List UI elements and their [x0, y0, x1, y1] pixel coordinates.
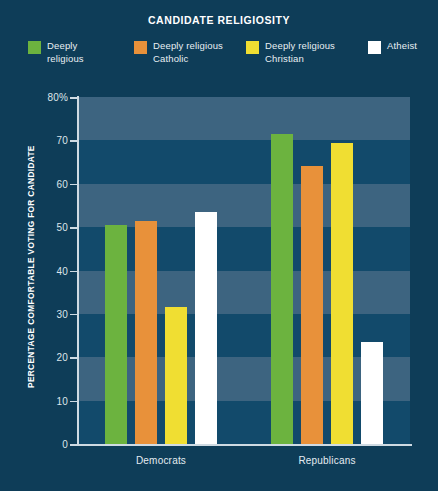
bar	[271, 134, 293, 444]
x-axis-tick-label: Republicans	[298, 455, 355, 466]
bar	[331, 143, 353, 444]
legend-item: Atheist	[368, 40, 438, 54]
y-axis-tick-label: 30	[22, 308, 68, 319]
legend-swatch-icon	[368, 41, 381, 54]
y-axis-tick	[70, 184, 77, 186]
plot-band	[78, 140, 410, 183]
legend-item: Deeply religious Christian	[246, 40, 366, 65]
y-axis-tick	[70, 401, 77, 403]
y-axis-tick-label: 60	[22, 178, 68, 189]
y-axis-tick-label: 40	[22, 265, 68, 276]
bar	[135, 221, 157, 444]
legend-item-label: Atheist	[387, 40, 417, 53]
plot-band	[78, 271, 410, 314]
legend-item-label: Deeply religious Catholic	[153, 40, 223, 65]
bar	[301, 166, 323, 444]
chart-container: CANDIDATE RELIGIOSITY Deeply religious D…	[0, 0, 438, 491]
y-axis-tick	[70, 97, 77, 99]
y-axis-tick	[70, 314, 77, 316]
y-axis-tick-label: 50	[22, 222, 68, 233]
x-axis-line	[77, 444, 412, 446]
bar	[195, 212, 217, 444]
y-axis-tick-label: 0	[22, 439, 68, 450]
y-axis-tick-label: 10	[22, 395, 68, 406]
chart-legend: Deeply religious Deeply religious Cathol…	[28, 40, 430, 74]
y-axis-tick	[70, 271, 77, 273]
y-axis-tick	[70, 227, 77, 229]
bar	[361, 342, 383, 444]
y-axis-tick	[70, 357, 77, 359]
y-axis-tick-label: 80%	[22, 92, 68, 103]
legend-item: Deeply religious Catholic	[134, 40, 252, 65]
x-axis-tick-label: Democrats	[136, 455, 186, 466]
y-axis-line	[77, 96, 79, 445]
y-axis-tick-labels: 01020304050607080%	[16, 0, 68, 491]
y-axis-tick	[70, 140, 77, 142]
legend-swatch-icon	[134, 41, 147, 54]
y-axis-tick-label: 20	[22, 352, 68, 363]
plot-band	[78, 97, 410, 140]
bar	[105, 225, 127, 444]
plot-area	[78, 97, 410, 444]
plot-band	[78, 184, 410, 227]
plot-band	[78, 227, 410, 270]
legend-swatch-icon	[246, 41, 259, 54]
y-axis-tick	[70, 444, 77, 446]
legend-item-label: Deeply religious Christian	[265, 40, 335, 65]
bar	[165, 307, 187, 444]
y-axis-tick-label: 70	[22, 135, 68, 146]
